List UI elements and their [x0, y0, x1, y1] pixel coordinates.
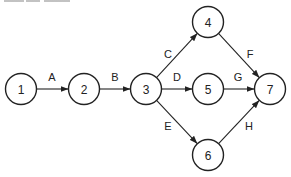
edge-label-g: G — [234, 71, 243, 83]
node-label: 3 — [143, 83, 150, 97]
node-4: 4 — [193, 7, 224, 38]
node-6: 6 — [193, 140, 224, 171]
node-label: 5 — [205, 83, 212, 97]
node-5: 5 — [193, 74, 224, 105]
node-2: 2 — [69, 74, 100, 105]
node-3: 3 — [131, 74, 162, 105]
edge-arrow-e — [157, 100, 197, 143]
edge-label-b: B — [111, 71, 118, 83]
edge-label-f: F — [247, 48, 254, 60]
node-label: 7 — [267, 83, 274, 97]
top-text-sliver — [4, 0, 70, 2]
edge-label-d: D — [173, 71, 181, 83]
node-1: 1 — [6, 74, 37, 105]
network-diagram: ABCDEFGH 1234567 — [0, 0, 291, 177]
node-label: 1 — [18, 83, 25, 97]
edge-label-h: H — [245, 120, 253, 132]
diagram-canvas: ABCDEFGH 1234567 — [0, 0, 291, 177]
edge-label-c: C — [164, 48, 172, 60]
edge-label-a: A — [48, 71, 56, 83]
node-label: 2 — [81, 83, 88, 97]
node-7: 7 — [255, 74, 286, 105]
node-label: 4 — [205, 16, 212, 30]
edge-label-e: E — [164, 120, 171, 132]
node-label: 6 — [205, 149, 212, 163]
